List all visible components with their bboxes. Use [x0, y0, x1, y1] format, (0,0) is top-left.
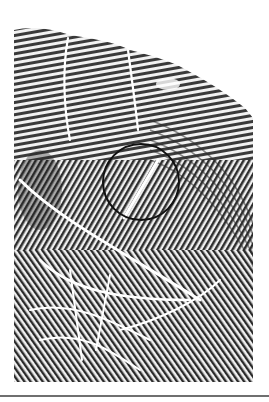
- fingerprint-image: [0, 0, 269, 402]
- ridge-area: [14, 20, 255, 390]
- fingerprint-figure: [0, 0, 269, 402]
- bottom-rule: [0, 395, 269, 397]
